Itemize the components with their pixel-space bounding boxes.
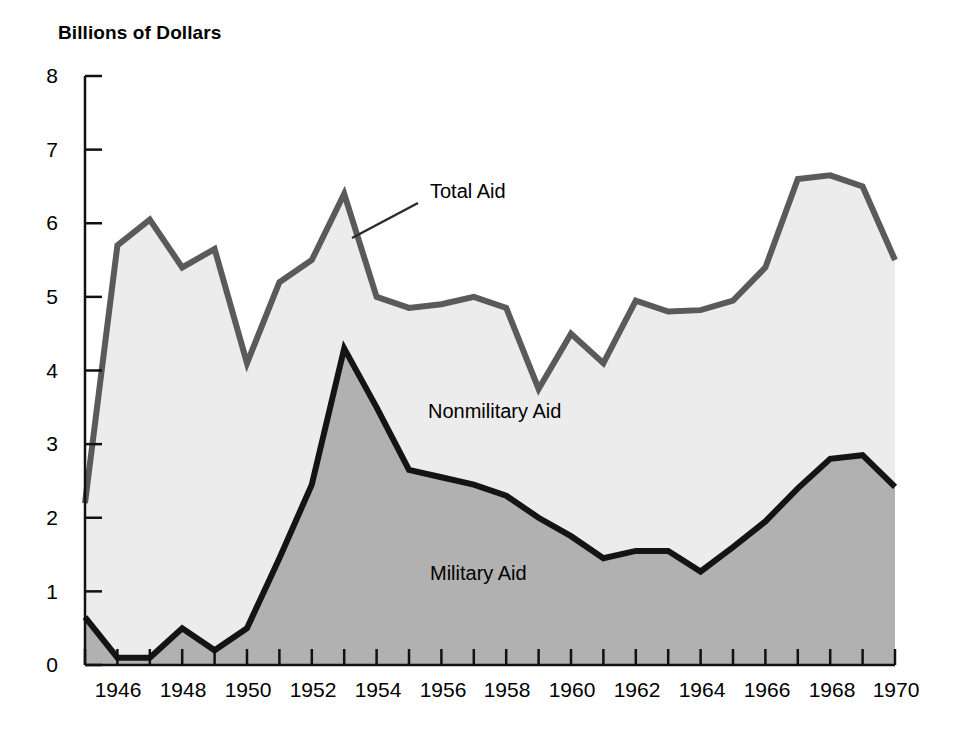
nonmilitary-aid-label: Nonmilitary Aid	[428, 400, 561, 423]
chart-figure: Billions of Dollars 8 7 6 5 4 3 2 1 0 19…	[0, 0, 978, 737]
military-aid-label: Military Aid	[430, 562, 527, 585]
plot-area	[0, 0, 978, 737]
total-aid-leader-line	[352, 203, 418, 238]
total-aid-label: Total Aid	[430, 180, 506, 203]
annotation-leader-lines	[352, 203, 418, 238]
